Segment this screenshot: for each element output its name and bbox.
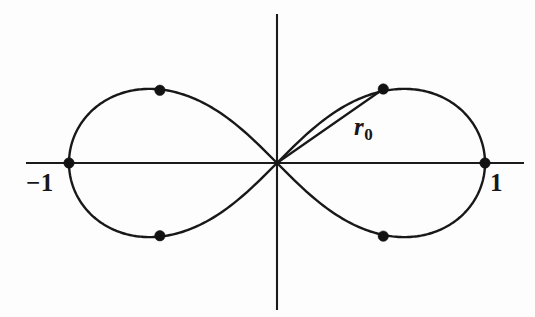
radius-label-subscript: 0: [364, 125, 373, 144]
x-axis-label-negative-one: −1: [26, 170, 54, 195]
radius-label-letter: r: [354, 113, 364, 140]
lemniscate-figure: −1 1 r0: [0, 0, 535, 317]
upper-right-point: [378, 84, 388, 94]
upper-left-point: [155, 85, 165, 95]
x-axis-label-positive-one: 1: [490, 170, 503, 195]
radius-label-r0: r0: [354, 114, 373, 143]
lower-left-point: [155, 231, 165, 241]
plot-canvas: [0, 0, 535, 317]
lower-right-point: [378, 231, 388, 241]
vertex-right: [480, 158, 490, 168]
vertex-left: [64, 158, 74, 168]
